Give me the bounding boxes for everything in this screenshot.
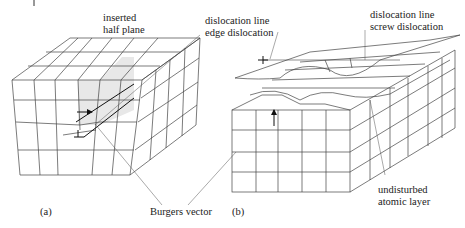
panel-a-label: (a) — [40, 206, 52, 218]
label-inserted: inserted — [103, 12, 136, 24]
label-dislocation-line-a: dislocation line — [205, 15, 269, 27]
label-burgers-vector: Burgers vector — [150, 206, 212, 218]
panel-b-cube — [232, 35, 460, 192]
panel-a-cube — [12, 38, 200, 175]
label-edge-dislocation: edge dislocation — [205, 27, 274, 39]
label-half-plane: half plane — [103, 24, 145, 36]
leader-burgers-a — [95, 124, 162, 205]
dislocation-figure: inserted half plane dislocation line edg… — [0, 0, 465, 228]
label-dislocation-line-b: dislocation line — [370, 9, 434, 21]
label-atomic-layer: atomic layer — [378, 196, 430, 208]
label-screw-dislocation: screw dislocation — [370, 21, 443, 33]
leader-undisturbed-layer — [370, 100, 385, 175]
panel-b-label: (b) — [232, 206, 244, 218]
leader-burgers-b — [188, 152, 236, 205]
label-undisturbed: undisturbed — [378, 184, 428, 196]
